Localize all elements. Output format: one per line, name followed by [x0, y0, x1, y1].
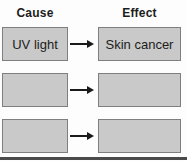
effect-box-1: Skin cancer	[98, 27, 181, 61]
arrow-head	[87, 40, 94, 48]
effect-column-header: Effect	[98, 6, 181, 20]
cause-box-2	[2, 73, 68, 107]
effect-box-2	[98, 73, 181, 107]
right-arrow-icon	[70, 131, 95, 141]
arrow-shaft	[70, 135, 87, 137]
arrow-shaft	[70, 89, 87, 91]
cause-effect-diagram: Cause Effect UV light Skin cancer	[0, 0, 187, 161]
bottom-edge-rule	[0, 157, 187, 160]
arrow-shaft	[70, 43, 87, 45]
cause-box-3	[2, 119, 68, 153]
cause-box-1: UV light	[2, 27, 68, 61]
arrow-head	[87, 132, 94, 140]
right-arrow-icon	[70, 85, 95, 95]
arrow-head	[87, 86, 94, 94]
right-arrow-icon	[70, 39, 95, 49]
effect-box-3	[98, 119, 181, 153]
cause-column-header: Cause	[2, 6, 68, 20]
